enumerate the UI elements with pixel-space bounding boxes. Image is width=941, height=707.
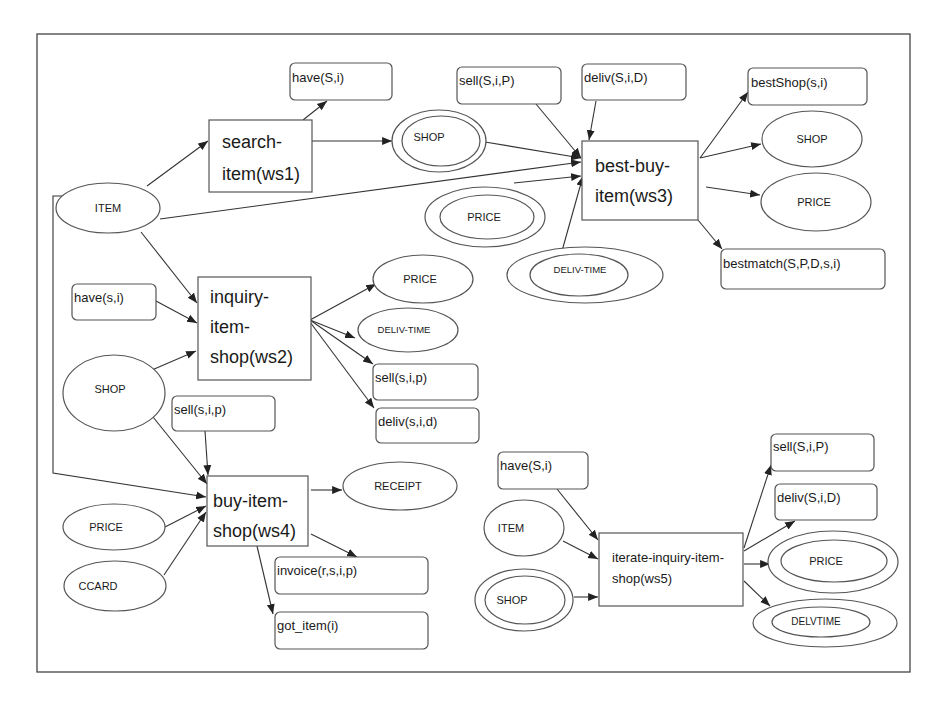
ws3-label-line2: item(ws3) — [595, 186, 673, 206]
concept-item: ITEM — [95, 202, 121, 214]
service-ws3: best-buy- item(ws3) — [582, 141, 698, 220]
pred-sell-ws4: sell(s,i,p) — [174, 402, 226, 417]
concept-receipt: RECEIPT — [374, 480, 422, 492]
concept-delivtime-ws2-out: DELIV-TIME — [378, 324, 431, 335]
pred-have-ws1: have(S,i) — [292, 70, 344, 85]
pred-sell-ws2: sell(s,i,p) — [375, 370, 427, 385]
concept-shop-ws2-in: SHOP — [94, 383, 125, 395]
concept-price-ws3-in: PRICE — [467, 211, 501, 223]
concept-ccard: CCARD — [78, 580, 117, 592]
ws3-label-line1: best-buy- — [595, 156, 670, 176]
pred-have-ws2: have(s,i) — [74, 290, 124, 305]
ws1-label-line1: search- — [222, 132, 282, 152]
concept-shop-ws5: SHOP — [496, 594, 527, 606]
pred-sell-ws5: sell(S,i,P) — [773, 439, 829, 454]
pred-deliv-ws5: deliv(S,i,D) — [777, 490, 841, 505]
concept-item-ws5: ITEM — [498, 522, 524, 534]
ws4-label-line1: buy-item- — [213, 491, 288, 511]
pred-invoice: invoice(r,s,i,p) — [277, 563, 357, 578]
service-ws2: inquiry- item- shop(ws2) — [198, 277, 311, 380]
ws1-label-line2: item(ws1) — [222, 164, 300, 184]
pred-deliv-ws2: deliv(s,i,d) — [378, 414, 437, 429]
service-ws1: search- item(ws1) — [209, 120, 312, 192]
pred-bestshop: bestShop(s,i) — [751, 75, 828, 90]
ws4-label-line2: shop(ws4) — [213, 521, 296, 541]
ws2-label-line2: item- — [210, 317, 250, 337]
concept-shop-ws3-out: SHOP — [796, 133, 827, 145]
service-ws4: buy-item- shop(ws4) — [207, 476, 308, 546]
service-ws5: iterate-inquiry-item- shop(ws5) — [599, 533, 743, 606]
concept-price-ws3-out: PRICE — [797, 196, 831, 208]
pred-have-ws5: have(S,i) — [500, 458, 552, 473]
pred-bestmatch: bestmatch(S,P,D,s,i) — [723, 256, 841, 271]
pred-deliv-ws3: deliv(S,i,D) — [584, 70, 648, 85]
concept-delivtime-ws3-in: DELIV-TIME — [554, 264, 607, 275]
concept-price-ws5-out: PRICE — [809, 555, 843, 567]
ws2-label-line1: inquiry- — [210, 287, 269, 307]
concept-delvtime-ws5-out: DELVTIME — [791, 616, 841, 627]
concept-price-ws2-out: PRICE — [403, 273, 437, 285]
ws2-label-line3: shop(ws2) — [210, 347, 293, 367]
concept-shop-ws1: SHOP — [413, 131, 444, 143]
ws5-label-line1: iterate-inquiry-item- — [612, 550, 724, 565]
pred-got-item: got_item(i) — [277, 618, 338, 633]
concept-price-ws4-in: PRICE — [89, 521, 123, 533]
service-composition-diagram: search- item(ws1) inquiry- item- shop(ws… — [0, 0, 941, 707]
ws5-label-line2: shop(ws5) — [612, 571, 672, 586]
pred-sell-ws3: sell(S,i,P) — [459, 73, 515, 88]
